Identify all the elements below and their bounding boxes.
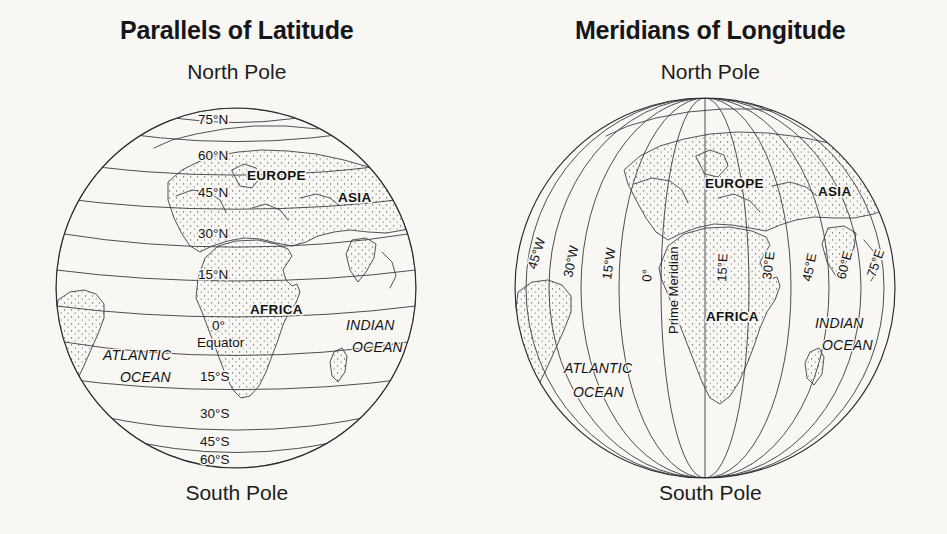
globe-parallels: 75°N 60°N 45°N 30°N 15°N 0° Equator 15°S… (0, 0, 474, 534)
ocean-label-indian-line1-right: INDIAN (815, 315, 864, 331)
south-pole-label-left: South Pole (0, 481, 474, 505)
lat-label-30n: 30°N (198, 226, 228, 241)
lat-label-60n: 60°N (198, 148, 228, 163)
region-label-europe-right: EUROPE (705, 176, 764, 191)
lon-label-45e: 45°E (799, 252, 819, 283)
lat-label-0: 0° (212, 318, 225, 333)
lat-label-75n: 75°N (198, 112, 228, 127)
lon-label-0: 0° (639, 269, 655, 282)
ocean-label-indian-line1: INDIAN (346, 317, 395, 333)
lon-label-prime-meridian: Prime Meridian (666, 247, 681, 334)
globe-meridians: 45°W 30°W 15°W 0° Prime Meridian 15°E 30… (474, 0, 947, 534)
ocean-label-atlantic-line1-right: ATLANTIC (563, 360, 633, 376)
panel-parallels-of-latitude: Parallels of Latitude North Pole (0, 0, 474, 534)
ocean-label-atlantic-line1: ATLANTIC (102, 347, 172, 363)
globe-parallels-svg: 75°N 60°N 45°N 30°N 15°N 0° Equator 15°S… (0, 0, 474, 534)
lat-label-45s: 45°S (200, 434, 229, 449)
panel-meridians-of-longitude: Meridians of Longitude North Pole (474, 0, 947, 534)
lon-label-30w: 30°W (560, 244, 581, 279)
globes-figure: Parallels of Latitude North Pole (0, 0, 947, 534)
south-pole-label-right: South Pole (474, 481, 947, 505)
globe-right-contents (512, 98, 902, 478)
lon-label-15w: 15°W (599, 246, 618, 280)
lat-label-60s: 60°S (200, 452, 229, 467)
globe-meridians-svg: 45°W 30°W 15°W 0° Prime Meridian 15°E 30… (474, 0, 947, 534)
ocean-label-indian-line2-right: OCEAN (822, 337, 873, 353)
ocean-label-atlantic-line2-right: OCEAN (573, 384, 624, 400)
ocean-label-atlantic-line2: OCEAN (120, 369, 171, 385)
lat-label-equator: Equator (197, 335, 245, 350)
lon-label-30e: 30°E (759, 250, 777, 280)
lon-label-15e: 15°E (714, 253, 730, 282)
region-label-africa-right: AFRICA (706, 309, 759, 324)
region-label-africa: AFRICA (250, 302, 303, 317)
region-label-asia: ASIA (338, 190, 371, 205)
lat-label-45n: 45°N (198, 185, 228, 200)
lat-label-15s: 15°S (200, 369, 229, 384)
region-label-asia-right: ASIA (818, 184, 851, 199)
region-label-europe: EUROPE (247, 168, 306, 183)
lat-label-30s: 30°S (200, 406, 229, 421)
ocean-label-indian-line2: OCEAN (352, 339, 403, 355)
lon-label-45w: 45°W (524, 235, 548, 271)
lat-label-15n: 15°N (198, 267, 228, 282)
